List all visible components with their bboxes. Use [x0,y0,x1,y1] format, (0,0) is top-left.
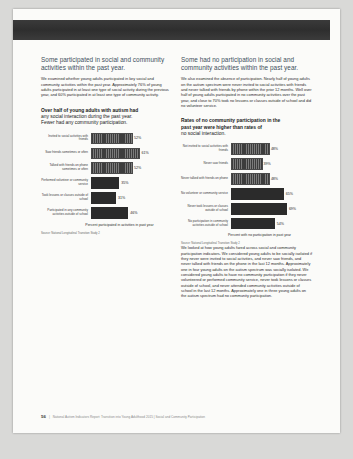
bar-category-label: Invited to social activities with friend… [41,135,91,143]
right-chart-axis-label: Percent with no participation in past ye… [181,233,312,237]
left-body-paragraph: We examined whether young adults partici… [41,76,172,97]
bar-category-label: Saw friends sometimes or often [41,151,91,155]
bar-track: 69% [231,202,312,216]
chart-row: Not invited to social activities with fr… [181,142,312,156]
bar-category-label: Performed volunteer or community service [41,179,91,187]
chart-row: Never took lessons or classes outside of… [181,202,312,216]
social-participation-chart: Invited to social activities with friend… [41,132,172,235]
bar-value-label: 48% [271,147,278,151]
bar: 61% [91,148,140,160]
bar-category-label: Took lessons or classes outside of schoo… [41,194,91,202]
bar-track: 52% [91,132,172,146]
bar-category-label: Never took lessons or classes outside of… [181,205,231,213]
bar-track: 46% [91,206,172,220]
bar-category-label: Not invited to social activities with fr… [181,145,231,153]
bar-category-label: Participated in any community activities… [41,209,91,217]
page-footer: 56 | National Autism Indicators Report: … [41,414,321,419]
bar-category-label: Never saw friends [181,162,231,166]
bar-value-label: 46% [130,211,137,215]
right-column: Some had no participation in social and … [181,56,312,299]
bar: 35% [91,177,119,189]
footer-title-text: National Autism Indicators Report: Trans… [53,415,205,419]
bar: 46% [91,207,128,219]
left-chart-title-l1: Over half of young adults with autism ha… [41,108,138,113]
left-chart-title-l2: any social interaction during the past y… [41,114,132,119]
bar-value-label: 39% [264,162,271,166]
chart-row: Invited to social activities with friend… [41,132,172,146]
bar-value-label: 35% [121,181,128,185]
bar-track: 48% [231,172,312,186]
right-chart-title: Rates of no community participation in t… [181,118,312,137]
right-body-paragraph: We also examined the absence of particip… [181,76,312,108]
chart-row: No volunteer or community service 65% [181,187,312,201]
left-chart-title-l3: Fewer had any community participation. [41,120,127,125]
bar-category-label: Talked with friends on phone sometimes o… [41,164,91,172]
chart-row: Never saw friends 39% [181,157,312,171]
right-closing-paragraph: We looked at how young adults fared acro… [181,245,312,298]
left-chart-source: Source: National Longitudinal Transition… [41,232,172,235]
right-chart-title-l1: Rates of no community participation in t… [181,118,280,123]
bar-category-label: Never talked with friends on phone [181,177,231,181]
right-chart-title-l2: past year were higher than rates of [181,125,262,130]
left-chart-title: Over half of young adults with autism ha… [41,108,172,127]
bar: 65% [231,188,284,200]
right-section-heading: Some had no participation in social and … [181,56,312,72]
bar-track: 48% [231,142,312,156]
left-chart-axis-label: Percent participated in activities in pa… [41,223,172,227]
bar-track: 35% [91,176,172,190]
bar-category-label: No volunteer or community service [181,192,231,196]
chart-row: Performed volunteer or community service… [41,176,172,190]
bar-value-label: 48% [271,177,278,181]
bar-value-label: 54% [277,222,284,226]
bar: 52% [91,133,133,145]
bar: 48% [231,173,270,185]
bar: 52% [91,162,133,174]
bar: 69% [231,203,287,215]
bar-track: 39% [231,157,312,171]
chart-row: Talked with friends on phone sometimes o… [41,161,172,175]
bar-value-label: 31% [118,196,125,200]
bar-track: 52% [91,161,172,175]
chart-row: Saw friends sometimes or often 61% [41,147,172,161]
no-participation-chart: Not invited to social activities with fr… [181,142,312,245]
bar-value-label: 69% [289,207,296,211]
bar-track: 65% [231,187,312,201]
chart-row: Never talked with friends on phone 48% [181,172,312,186]
bar: 48% [231,143,270,155]
page-content: Some participated in social and communit… [41,56,313,299]
chart-row: No participation in community activities… [181,217,312,231]
bar-track: 54% [231,217,312,231]
chart-row: Took lessons or classes outside of schoo… [41,191,172,205]
page-header-bar [13,20,330,40]
bar: 39% [231,158,263,170]
two-column-layout: Some participated in social and communit… [41,56,313,299]
bar-category-label: No participation in community activities… [181,220,231,228]
bar: 54% [231,218,275,230]
footer-page-number: 56 [41,414,46,419]
bar-value-label: 65% [286,192,293,196]
footer-separator: | [49,415,50,419]
left-section-heading: Some participated in social and communit… [41,56,172,72]
bar-value-label: 52% [134,166,141,170]
bar-track: 61% [91,147,172,161]
right-chart-title-l3: no social interaction. [181,131,226,136]
bar-track: 31% [91,191,172,205]
bar: 31% [91,192,116,204]
chart-row: Participated in any community activities… [41,206,172,220]
bar-value-label: 52% [134,136,141,140]
left-column: Some participated in social and communit… [41,56,172,299]
bar-value-label: 61% [141,151,148,155]
report-page: Some participated in social and communit… [13,9,340,433]
